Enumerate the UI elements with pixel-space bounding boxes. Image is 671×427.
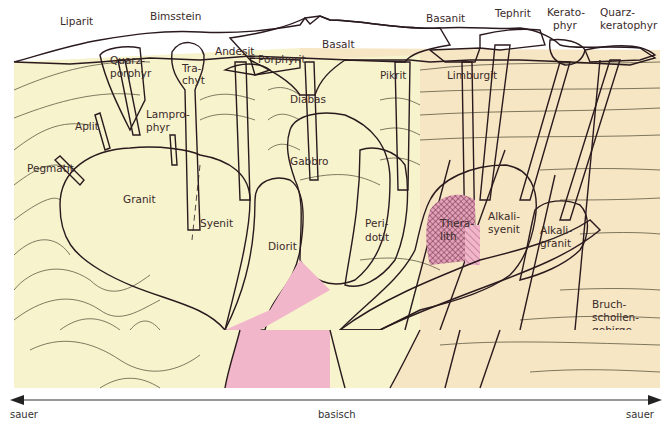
label-syenit: Syenit [200, 217, 233, 229]
label-lamprophyr-1: Lampro- [146, 108, 190, 120]
label-tephrit: Tephrit [494, 7, 531, 19]
label-quarzporphyr-1: Quarz- [110, 54, 145, 66]
label-diabas: Diabas [290, 93, 326, 105]
label-alkaligranit-1: Alkali- [540, 224, 572, 236]
label-basanit: Basanit [426, 12, 465, 24]
label-gabbro: Gabbro [290, 155, 328, 167]
label-aplit: Aplit [75, 120, 99, 132]
label-bruchschollengebirge-2: schollen- [592, 311, 639, 323]
axis-label-right: sauer [626, 409, 655, 420]
label-keratophyr-1: Kerato- [547, 6, 585, 18]
arrow-left-icon [10, 395, 24, 405]
label-lamprophyr-2: phyr [146, 121, 171, 133]
label-trachyt-2: chyt [182, 74, 205, 86]
label-diorit: Diorit [268, 240, 297, 252]
acidity-axis: sauer basisch sauer [10, 395, 662, 420]
arrow-right-icon [648, 395, 662, 405]
label-quarzkeratophyr-2: keratophyr [600, 19, 658, 31]
label-bimsstein: Bimsstein [150, 10, 201, 22]
label-andesit: Andesit [215, 45, 254, 57]
label-peridotit-1: Peri- [365, 217, 389, 229]
label-limburgit: Limburgit [447, 69, 497, 81]
label-alkaligranit-2: granit [540, 237, 571, 249]
label-quarzkeratophyr-1: Quarz- [600, 6, 635, 18]
label-peridotit-2: dotit [365, 231, 389, 243]
igneous-rocks-cross-section: Liparit Bimsstein Quarz- porphyr Tra- ch… [0, 0, 671, 427]
label-trachyt-1: Tra- [181, 62, 202, 74]
label-porphyrit: Porphyrit [258, 53, 306, 65]
label-alkalisyenit-2: syenit [488, 223, 520, 235]
label-therallith-2: lith [440, 230, 457, 242]
label-therallith-1: Thera- [439, 217, 474, 229]
label-quarzporphyr-2: porphyr [110, 67, 152, 79]
axis-label-left: sauer [10, 409, 39, 420]
label-granit: Granit [123, 193, 156, 205]
label-pikrit: Pikrit [380, 69, 406, 81]
label-alkalisyenit-1: Alkali- [488, 210, 520, 222]
label-liparit: Liparit [60, 15, 93, 27]
axis-label-center: basisch [318, 409, 356, 420]
label-pegmatit: Pegmatit [27, 162, 74, 174]
label-bruchschollengebirge-1: Bruch- [592, 298, 627, 310]
label-keratophyr-2: phyr [553, 19, 578, 31]
block-mountains-region [300, 48, 660, 330]
lower-crust [14, 330, 660, 388]
label-basalt: Basalt [322, 38, 355, 50]
